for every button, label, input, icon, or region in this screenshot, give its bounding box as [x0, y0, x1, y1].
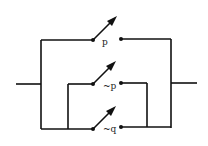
- switch-notp-contact: [119, 81, 123, 85]
- switch-notp-label: ~p: [103, 81, 117, 91]
- circuit-diagram: p ~p ~q: [0, 0, 208, 146]
- switch-notq-contact: [119, 125, 123, 129]
- switch-p-label: p: [102, 37, 108, 47]
- switch-notq-label: ~q: [103, 124, 117, 134]
- switch-p-contact: [119, 37, 123, 41]
